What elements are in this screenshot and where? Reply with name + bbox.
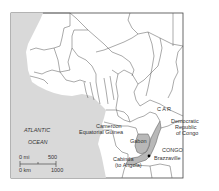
label-brazzaville: Brazzaville xyxy=(154,155,181,161)
scale-mi-value: 500 xyxy=(48,154,57,160)
label-car: C A R xyxy=(157,106,171,112)
label-cabinda-angola: (to Angola) xyxy=(115,162,142,168)
label-gabon: Gabon xyxy=(130,138,147,144)
label-congo: CONGO xyxy=(162,147,183,153)
scale-km-value: 1000 xyxy=(51,167,63,173)
scale-mi-label: 0 mi xyxy=(19,154,29,160)
label-ocean: OCEAN xyxy=(28,139,48,145)
map-canvas xyxy=(0,0,219,191)
label-atlantic: ATLANTIC xyxy=(24,127,50,133)
label-drc-3: of Congo xyxy=(176,130,198,136)
scale-km-label: 0 km xyxy=(19,167,31,173)
capital-marker xyxy=(148,155,151,158)
label-equatorial-guinea: Equatorial Guinea xyxy=(79,129,123,135)
